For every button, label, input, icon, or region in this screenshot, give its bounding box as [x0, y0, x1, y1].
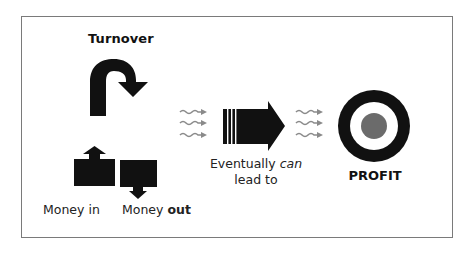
- lead-prefix: Eventually: [210, 156, 280, 171]
- money-in-label: Money in: [43, 204, 100, 217]
- wavy-arrowheads-left: [201, 109, 207, 138]
- u-turn-arrow-icon: [90, 59, 148, 116]
- wavy-arrows-left-icon: [180, 111, 202, 137]
- lead-emphasis: can: [280, 156, 302, 171]
- money-out-prefix: Money: [122, 202, 167, 217]
- target-icon: [338, 90, 410, 162]
- profit-label: PROFIT: [340, 169, 410, 182]
- money-in-icon: [74, 146, 115, 186]
- wavy-arrowheads-right: [317, 109, 323, 138]
- lead-to-caption: Eventually can lead to: [205, 156, 307, 188]
- money-out-icon: [120, 160, 157, 199]
- lead-line-1: Eventually can: [205, 156, 307, 172]
- turnover-title: Turnover: [88, 32, 154, 45]
- money-out-label: Money out: [122, 204, 191, 217]
- striped-right-arrow-icon: [223, 101, 285, 151]
- wavy-arrows-right-icon: [296, 111, 318, 137]
- money-out-emphasis: out: [167, 202, 190, 217]
- lead-line-2: lead to: [205, 172, 307, 188]
